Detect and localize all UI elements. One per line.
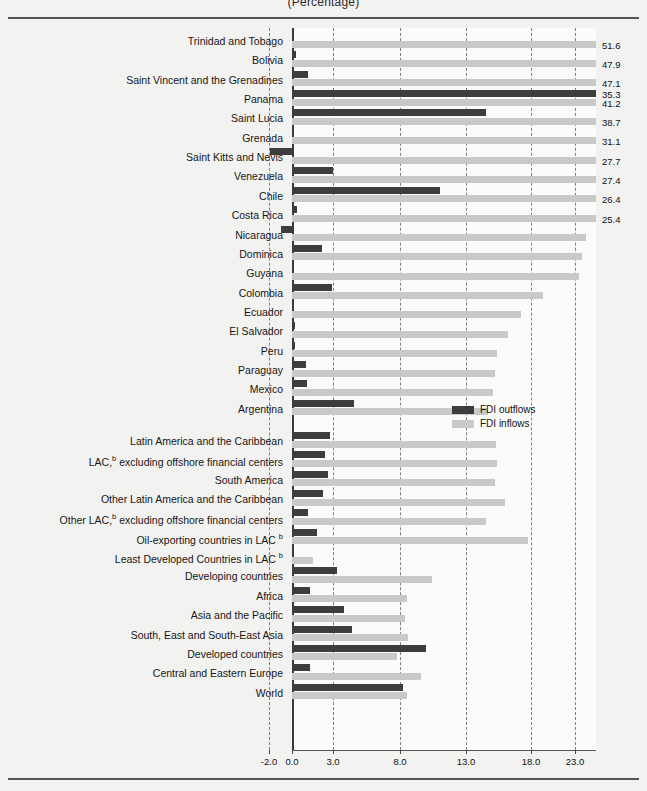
bar-row: Developing countries: [0, 567, 647, 586]
category-label: Saint Kitts and Nevis: [186, 152, 283, 163]
bar-fdi-outflows: [292, 342, 295, 349]
bar-row: Grenada31.1: [0, 129, 647, 148]
bar-row: Least Developed Countries in LAC b: [0, 548, 647, 567]
category-label: Argentina: [238, 404, 283, 415]
bar-row: South, East and South-East Asia: [0, 626, 647, 645]
top-rule: [8, 17, 639, 19]
category-label: Panama: [244, 94, 283, 105]
bar-fdi-inflows: [292, 60, 596, 67]
bar-fdi-outflows: [292, 284, 332, 291]
bar-fdi-outflows: [292, 206, 297, 213]
bar-row: Saint Kitts and Nevis27.7: [0, 148, 647, 167]
bar-fdi-inflows: [292, 537, 528, 544]
category-label: Oil-exporting countries in LAC b: [136, 533, 283, 545]
x-tick-label-3-0: 3.0: [326, 756, 339, 767]
bar-row: Ecuador: [0, 303, 647, 322]
bar-fdi-outflows: [292, 587, 310, 594]
category-label: Guyana: [246, 268, 283, 279]
bar-fdi-outflows: [292, 129, 293, 136]
bar-fdi-inflows: [292, 595, 407, 602]
category-label: Venezuela: [234, 171, 283, 182]
x-tick-label-18-0: 18.0: [522, 756, 541, 767]
bar-row: Argentina: [0, 400, 647, 419]
bar-fdi-outflows: [292, 451, 325, 458]
bar-fdi-inflows: [292, 518, 486, 525]
bar-fdi-inflows: [292, 195, 596, 202]
category-label: Costa Rica: [232, 210, 283, 221]
bar-fdi-outflows: [292, 509, 308, 516]
bar-fdi-outflows: [292, 684, 403, 691]
bar-fdi-outflows: [292, 361, 306, 368]
chart-legend: FDI outflows FDI inflows: [452, 404, 536, 432]
category-label: Chile: [259, 191, 283, 202]
bar-fdi-inflows: [292, 273, 579, 280]
legend-swatch-inflows-icon: [452, 420, 474, 428]
bar-fdi-outflows: [292, 109, 486, 116]
category-label: Peru: [261, 346, 283, 357]
category-label: Saint Vincent and the Grenadines: [126, 75, 283, 86]
bar-fdi-outflows: [292, 51, 296, 58]
bar-fdi-inflows: [292, 79, 596, 86]
x-axis-baseline: [292, 750, 596, 751]
category-label: Developed countries: [187, 649, 283, 660]
bar-row: Africa: [0, 587, 647, 606]
bar-row: Peru: [0, 342, 647, 361]
bar-fdi-inflows: [292, 441, 496, 448]
bar-fdi-outflows: [292, 432, 330, 439]
category-label: Central and Eastern Europe: [153, 668, 283, 679]
x-tick-label--2-0: -2.0: [261, 756, 277, 767]
bar-row: Asia and the Pacific: [0, 606, 647, 625]
bar-fdi-outflows: [292, 71, 308, 78]
category-label: Dominica: [239, 249, 283, 260]
category-label: El Salvador: [229, 326, 283, 337]
bar-row: Developed countries: [0, 645, 647, 664]
bar-fdi-outflows: [292, 626, 352, 633]
bar-row: Costa Rica25.4: [0, 206, 647, 225]
bar-fdi-inflows: [292, 499, 505, 506]
value-label-inflows: 26.4: [602, 195, 621, 205]
value-label-inflows: 47.9: [602, 60, 621, 70]
bar-fdi-inflows: [292, 634, 408, 641]
category-label: Ecuador: [244, 307, 283, 318]
category-label: Mexico: [250, 384, 283, 395]
bar-fdi-outflows: [292, 490, 323, 497]
bar-fdi-inflows: [292, 350, 497, 357]
bar-fdi-outflows: [292, 32, 293, 39]
bar-fdi-outflows: [292, 264, 293, 271]
bar-fdi-inflows: [292, 653, 397, 660]
bar-fdi-outflows: [292, 645, 426, 652]
category-label: Bolivia: [252, 55, 283, 66]
bar-row: South America: [0, 471, 647, 490]
category-label: Developing countries: [185, 571, 283, 582]
bar-row: Guyana: [0, 264, 647, 283]
x-tick-18-0: [531, 750, 532, 754]
bar-fdi-inflows: [292, 557, 313, 564]
bar-fdi-inflows: [292, 389, 493, 396]
bar-fdi-inflows: [292, 99, 596, 106]
bar-row: Paraguay: [0, 361, 647, 380]
category-label: Nicaragua: [235, 230, 283, 241]
bar-fdi-inflows: [292, 615, 405, 622]
bar-fdi-outflows: [281, 226, 293, 233]
bar-row: Oil-exporting countries in LAC b: [0, 529, 647, 548]
legend-swatch-outflows-icon: [452, 406, 474, 414]
x-tick-0-0: [292, 750, 293, 754]
category-label: South, East and South-East Asia: [131, 630, 283, 641]
bar-fdi-outflows: [292, 322, 295, 329]
x-tick--2-0: [269, 750, 270, 754]
category-label: Africa: [256, 591, 283, 602]
bar-fdi-outflows: [292, 529, 317, 536]
bar-fdi-inflows: [292, 311, 521, 318]
bar-row: Dominica: [0, 245, 647, 264]
category-label: Latin America and the Caribbean: [130, 436, 283, 447]
bar-row: Panama35.341.2: [0, 90, 647, 109]
bar-row: World: [0, 684, 647, 703]
value-label-inflows: 41.2: [602, 99, 621, 109]
bar-fdi-inflows: [292, 176, 596, 183]
legend-label-inflows: FDI inflows: [480, 419, 529, 429]
bar-fdi-outflows: [292, 90, 596, 97]
bar-fdi-inflows: [292, 673, 421, 680]
value-label-inflows: 47.1: [602, 79, 621, 89]
bar-row: Chile26.4: [0, 187, 647, 206]
category-label: Grenada: [242, 133, 283, 144]
